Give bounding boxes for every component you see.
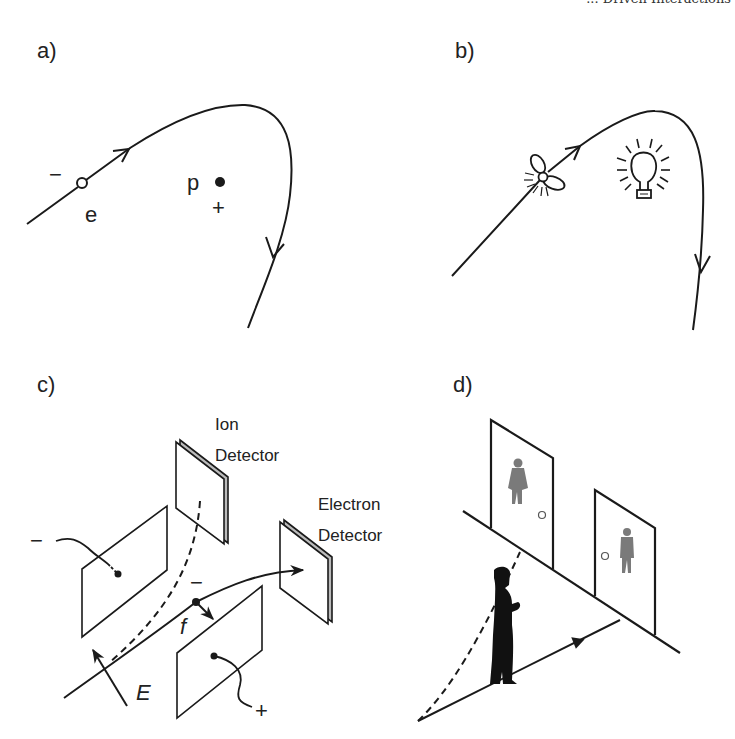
electron-circle xyxy=(77,178,87,188)
door-knob xyxy=(602,553,609,560)
proton-dot xyxy=(215,177,225,187)
walk-trajectory xyxy=(418,620,620,721)
woman-restroom-icon xyxy=(508,459,528,505)
force-label: f xyxy=(180,614,189,639)
field-arrow xyxy=(93,650,127,706)
field-label: E xyxy=(136,680,151,705)
panel-d: d) xyxy=(418,372,680,721)
positive-plate-sign: + xyxy=(255,698,268,723)
electron-detector-label-line1: Electron xyxy=(318,495,380,514)
electron-charge: − xyxy=(49,162,62,187)
proton-charge: + xyxy=(212,195,225,220)
panel-a-label: a) xyxy=(37,38,57,63)
ion-detector-label-line2: Detector xyxy=(215,446,280,465)
panel-b: b) xyxy=(452,38,710,330)
door-knob xyxy=(539,512,546,519)
panel-b-label: b) xyxy=(455,38,475,63)
electron-label: e xyxy=(85,202,97,227)
panel-a: a) − e p + xyxy=(27,38,292,328)
proton-label: p xyxy=(187,170,199,195)
man-restroom-icon xyxy=(620,528,634,573)
ion-detector-label-line1: Ion xyxy=(215,415,239,434)
electron-trajectory xyxy=(27,105,292,328)
figure-canvas: a) − e p + b) xyxy=(0,0,735,739)
panel-d-label: d) xyxy=(453,372,473,397)
force-arrow xyxy=(196,602,213,619)
panel-c-label: c) xyxy=(37,372,55,397)
person-silhouette-icon xyxy=(490,567,520,684)
electron-detector-label-line2: Detector xyxy=(318,526,383,545)
negative-plate-sign: − xyxy=(30,528,43,553)
arrowhead-icon xyxy=(695,254,710,272)
negative-plate xyxy=(82,506,167,637)
ball-trajectory xyxy=(452,111,703,330)
lightbulb-icon xyxy=(617,139,670,198)
panel-c: c) Ion Detector − Electron Detector + xyxy=(30,372,383,723)
particle-charge: − xyxy=(190,570,203,595)
